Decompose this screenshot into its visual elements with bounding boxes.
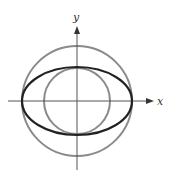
diagram-svg: x y [0, 0, 175, 179]
y-axis-label: y [72, 11, 80, 24]
x-axis-arrow-icon [146, 98, 154, 104]
x-axis-label: x [157, 95, 164, 108]
y-axis-arrow-icon [74, 26, 80, 34]
figure-canvas: x y [0, 0, 175, 179]
